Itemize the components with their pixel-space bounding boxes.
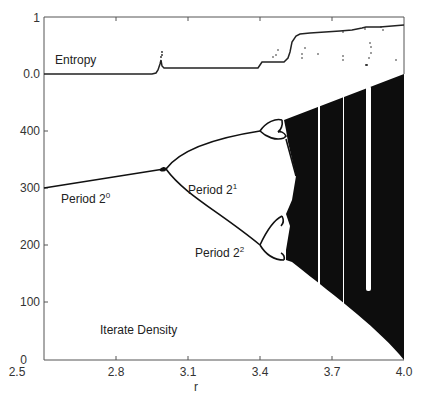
entropy-label: Entropy <box>55 53 96 67</box>
bifurcation-chart: 2.5 2.8 3.1 3.4 3.7 4.0 r 1 0.0 0 100 20… <box>0 0 426 399</box>
svg-text:400: 400 <box>20 124 40 138</box>
iterate-density-label: Iterate Density <box>100 323 177 337</box>
period-2-1-label: Period 21 <box>188 182 238 197</box>
svg-text:2.5: 2.5 <box>9 365 26 379</box>
svg-text:100: 100 <box>20 295 40 309</box>
svg-text:300: 300 <box>20 181 40 195</box>
svg-text:4.0: 4.0 <box>396 365 413 379</box>
svg-text:200: 200 <box>20 238 40 252</box>
svg-text:3.4: 3.4 <box>252 365 269 379</box>
y-axis-ticks <box>44 131 48 302</box>
svg-text:3.1: 3.1 <box>180 365 197 379</box>
svg-text:2.8: 2.8 <box>108 365 125 379</box>
svg-text:3.7: 3.7 <box>324 365 341 379</box>
y-tick-labels: 1 0.0 0 100 200 300 400 <box>20 11 40 367</box>
period-2-0-label: Period 20 <box>61 191 111 206</box>
svg-text:0: 0 <box>20 353 27 367</box>
period-2-2-label: Period 22 <box>195 245 245 260</box>
x-axis-label: r <box>194 380 198 394</box>
bifurcation-series <box>44 119 296 260</box>
svg-text:0.0: 0.0 <box>23 67 40 81</box>
svg-text:1: 1 <box>33 11 40 25</box>
x-tick-labels: 2.5 2.8 3.1 3.4 3.7 4.0 <box>9 365 413 379</box>
entropy-series <box>44 25 404 74</box>
